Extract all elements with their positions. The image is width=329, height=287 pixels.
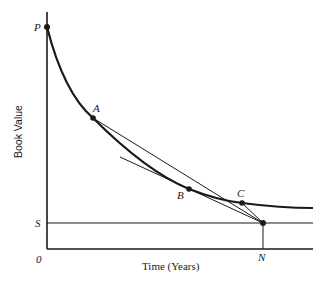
label-origin: 0 [36, 253, 42, 265]
point-c [239, 200, 245, 206]
label-s: S [35, 217, 41, 229]
label-b: B [177, 189, 184, 201]
point-a [90, 115, 96, 121]
point-b [186, 186, 192, 192]
chord-a-n [93, 118, 263, 223]
point-n [260, 220, 266, 226]
x-axis-title: Time (Years) [142, 260, 200, 273]
label-p: P [33, 21, 41, 33]
point-p [44, 24, 50, 30]
book-value-curve [47, 27, 313, 208]
book-value-diagram: P A B C N S 0 Time (Years) Book Value [0, 0, 329, 287]
y-axis-title: Book Value [12, 105, 24, 158]
label-c: C [237, 187, 245, 199]
label-n: N [257, 251, 266, 263]
label-a: A [92, 102, 100, 114]
